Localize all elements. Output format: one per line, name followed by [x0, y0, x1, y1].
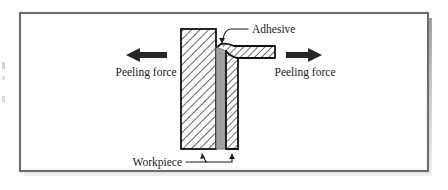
workpiece-left — [181, 29, 216, 149]
peel-joint-diagram: Peeling force Peeling force Adhesive Wor… — [0, 0, 448, 190]
peeling-force-left-label: Peeling force — [116, 66, 177, 79]
peeling-force-right-label: Peeling force — [275, 66, 336, 79]
adhesive-label: Adhesive — [252, 23, 295, 35]
workpiece-label: Workpiece — [132, 156, 182, 169]
figure-container: Peeling force Peeling force Adhesive Wor… — [0, 0, 448, 190]
adhesive-layer — [216, 47, 226, 149]
